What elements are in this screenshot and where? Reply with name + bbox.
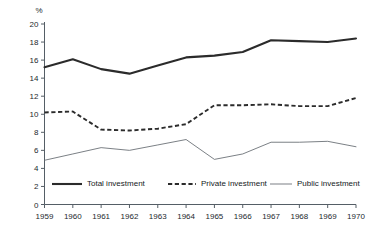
y-tick-label: 4 — [34, 164, 39, 173]
x-axis-tick-group: 1959196019611962196319641965196619671968… — [36, 205, 366, 221]
y-tick-label: 12 — [30, 92, 39, 101]
x-tick-label: 1970 — [347, 212, 365, 221]
x-tick-label: 1964 — [177, 212, 195, 221]
x-tick-label: 1960 — [64, 212, 82, 221]
x-tick-label: 1966 — [234, 212, 252, 221]
investment-line-chart: % 02468101214161820 19591960196119621963… — [0, 0, 369, 232]
y-tick-label: 8 — [34, 128, 39, 137]
x-tick-label: 1965 — [206, 212, 224, 221]
x-tick-label: 1963 — [149, 212, 167, 221]
series-line-public-investment — [45, 140, 357, 161]
x-tick-label: 1961 — [92, 212, 110, 221]
x-tick-label: 1967 — [262, 212, 280, 221]
x-tick-label: 1959 — [36, 212, 54, 221]
y-tick-label: 2 — [34, 182, 39, 191]
y-tick-label: 14 — [30, 74, 39, 83]
chart-legend: Total investmentPrivate investmentPublic… — [52, 179, 360, 188]
x-tick-label: 1969 — [319, 212, 337, 221]
legend-label-2: Private investment — [201, 179, 268, 188]
x-tick-label: 1962 — [121, 212, 139, 221]
y-axis-tick-group: 02468101214161820 — [30, 20, 45, 210]
series-line-private-investment — [45, 98, 357, 131]
legend-label-3: Public investment — [297, 179, 360, 188]
y-tick-label: 10 — [30, 110, 39, 119]
y-tick-label: 20 — [30, 20, 39, 29]
y-tick-label: 16 — [30, 56, 39, 65]
series-line-total-investment — [45, 38, 357, 73]
y-tick-label: 18 — [30, 38, 39, 47]
y-tick-label: 0 — [34, 201, 39, 210]
y-tick-label: 6 — [34, 146, 39, 155]
chart-canvas: % 02468101214161820 19591960196119621963… — [0, 0, 369, 232]
legend-label-1: Total investment — [87, 179, 146, 188]
x-tick-label: 1968 — [290, 212, 308, 221]
y-axis-unit-label: % — [35, 6, 42, 15]
